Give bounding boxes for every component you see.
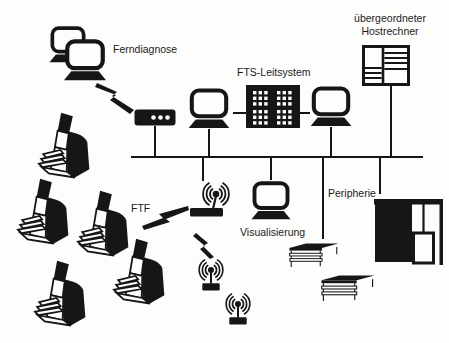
agv-vehicle-icon [16, 178, 78, 247]
label-peripherie: Peripherie [328, 187, 376, 200]
lightning-bolt-antenna [193, 233, 214, 259]
agv-vehicle-icon [37, 112, 99, 181]
modem-icon [134, 109, 176, 126]
workstation-left-icon [184, 88, 234, 129]
label-visualisierung: Visualisierung [240, 226, 305, 239]
wireless-antenna-icon [189, 258, 233, 291]
agv-vehicle-icon [112, 238, 174, 307]
lightning-bolt-ferndiagnose [95, 83, 134, 114]
shelf-rack-icon [321, 275, 375, 302]
storage-machine-icon [374, 199, 443, 267]
label-hostrechner: übergeordneter Hostrechner [344, 12, 436, 38]
visualisierung-workstation-icon [247, 181, 295, 220]
host-cabinet-icon [362, 45, 410, 86]
label-ferndiagnose: Ferndiagnose [113, 43, 177, 56]
remote-workstation-front-icon [59, 39, 111, 81]
shelf-rack-icon [289, 243, 339, 268]
label-fts-leitsystem: FTS-Leitsystem [237, 66, 311, 79]
wireless-antenna-icon [186, 181, 234, 217]
agv-vehicle-icon [33, 260, 95, 329]
workstation-right-icon [306, 86, 356, 127]
label-ftf: FTF [131, 202, 150, 215]
wireless-antenna-icon [216, 292, 260, 325]
fts-system-diagram: Ferndiagnose FTS-Leitsystem übergeordnet… [0, 0, 449, 343]
control-computer-icon [246, 85, 300, 128]
